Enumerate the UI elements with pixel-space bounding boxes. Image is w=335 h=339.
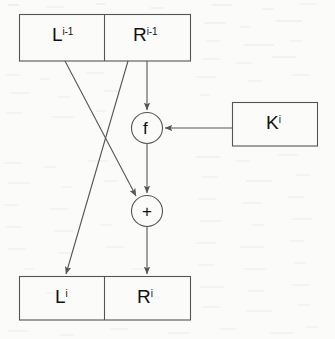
function-node-label: f	[143, 120, 148, 137]
bottom-right-cell-label: Ri	[137, 287, 153, 306]
top-left-cell-base: L	[52, 24, 63, 45]
key-block-base: K	[266, 112, 279, 133]
edge-right-to-left-output	[66, 61, 128, 274]
xor-node-label: +	[142, 203, 152, 220]
diagram-canvas: Li-1 Ri-1 Li Ri Ki f +	[0, 0, 335, 339]
top-right-cell-base: R	[133, 24, 147, 45]
bottom-left-cell-superscript: i	[66, 288, 68, 299]
top-right-cell-superscript: i-1	[147, 26, 158, 37]
key-block-superscript: i	[279, 114, 281, 125]
top-left-cell-superscript: i-1	[63, 26, 74, 37]
bottom-right-cell-superscript: i	[151, 288, 153, 299]
key-block-label: Ki	[266, 113, 281, 132]
bottom-right-cell-base: R	[137, 286, 151, 307]
edge-left-to-xor	[65, 61, 136, 196]
top-left-cell-label: Li-1	[52, 25, 73, 44]
bottom-left-cell-base: L	[55, 286, 66, 307]
bottom-left-cell-label: Li	[55, 287, 68, 306]
top-right-cell-label: Ri-1	[133, 25, 157, 44]
feistel-diagram-svg	[0, 0, 335, 339]
